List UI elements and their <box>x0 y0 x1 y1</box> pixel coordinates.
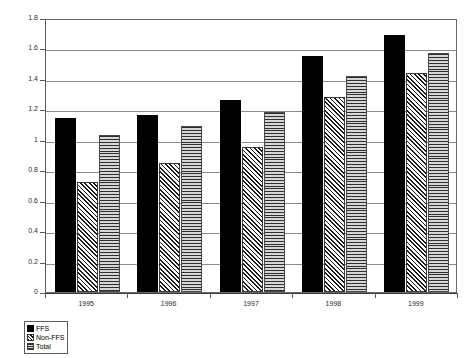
x-axis-label-1995: 1995 <box>56 300 116 307</box>
y-axis-label: 1.8 <box>2 14 38 21</box>
bar-ffs-1998 <box>302 56 323 292</box>
x-axis-label-1997: 1997 <box>221 300 281 307</box>
y-axis-label: 1.2 <box>2 105 38 112</box>
x-axis-label-1999: 1999 <box>386 300 446 307</box>
bar-ffs-1999 <box>384 35 405 292</box>
y-axis-label: 0.8 <box>2 166 38 173</box>
x-axis-tick <box>210 293 211 298</box>
y-axis-label: 0 <box>2 288 38 295</box>
y-axis-label: 1.4 <box>2 75 38 82</box>
bar-chart: 00.20.40.60.811.21.41.61.8 1995199619971… <box>0 0 472 358</box>
legend: FFS Non-FFS Total <box>24 321 68 354</box>
x-axis-tick <box>127 293 128 298</box>
y-axis-tick <box>40 49 45 50</box>
plot-area <box>45 19 457 293</box>
y-axis-tick <box>40 171 45 172</box>
x-axis-tick <box>292 293 293 298</box>
y-axis-tick <box>40 110 45 111</box>
legend-label-total: Total <box>36 342 51 351</box>
y-axis-label: 0.2 <box>2 258 38 265</box>
bar-ffs-1995 <box>55 118 76 292</box>
legend-swatch-ffs-icon <box>27 325 34 332</box>
y-axis-tick <box>40 263 45 264</box>
bar-total-1995 <box>99 135 120 292</box>
bar-non-ffs-1998 <box>324 97 345 292</box>
bar-non-ffs-1999 <box>406 73 427 292</box>
x-axis-line <box>45 293 458 294</box>
bars-layer <box>46 20 456 292</box>
y-axis-line <box>45 19 46 294</box>
bar-total-1996 <box>181 126 202 292</box>
bar-total-1997 <box>264 112 285 292</box>
bar-non-ffs-1995 <box>77 182 98 292</box>
bar-non-ffs-1997 <box>242 147 263 292</box>
x-axis-tick <box>45 293 46 298</box>
legend-swatch-non-ffs-icon <box>27 334 34 341</box>
legend-item-non-ffs: Non-FFS <box>27 333 64 342</box>
y-axis-tick <box>40 80 45 81</box>
bar-total-1998 <box>346 76 367 292</box>
legend-label-non-ffs: Non-FFS <box>36 333 64 342</box>
y-axis-tick <box>40 19 45 20</box>
bar-non-ffs-1996 <box>159 163 180 292</box>
legend-item-total: Total <box>27 342 64 351</box>
x-axis-label-1998: 1998 <box>303 300 363 307</box>
y-axis-tick <box>40 232 45 233</box>
y-axis-tick <box>40 141 45 142</box>
y-axis-label: 1.6 <box>2 44 38 51</box>
x-axis-tick <box>457 293 458 298</box>
y-axis-label: 1 <box>2 136 38 143</box>
bar-ffs-1996 <box>137 115 158 292</box>
bar-total-1999 <box>428 53 449 292</box>
legend-item-ffs: FFS <box>27 324 64 333</box>
y-axis-label: 0.6 <box>2 197 38 204</box>
bar-ffs-1997 <box>220 100 241 292</box>
legend-swatch-total-icon <box>27 343 34 350</box>
y-axis-label: 0.4 <box>2 227 38 234</box>
x-axis-tick <box>375 293 376 298</box>
y-axis-tick <box>40 202 45 203</box>
x-axis-label-1996: 1996 <box>139 300 199 307</box>
legend-label-ffs: FFS <box>36 324 49 333</box>
